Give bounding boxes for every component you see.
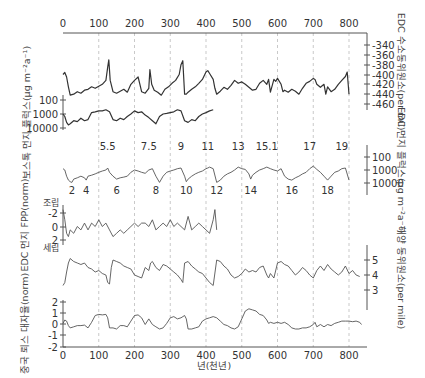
top-x-tick-label: 700 [304, 18, 323, 29]
top-x-tick-label: 200 [125, 18, 144, 29]
mis-stage-label: 10 [180, 185, 193, 196]
bottom-x-tick-label: 200 [125, 350, 144, 361]
mis-stage-label: 4 [83, 185, 89, 196]
vostok-dust-axis-title: 보스톡 먼지 플럭스(μg m⁻²a⁻¹) [21, 46, 32, 179]
axis-labels: 0010010020020030030040040050050060060070… [19, 13, 407, 375]
mis-stage-label: 13 [232, 141, 245, 152]
mis-stage-label: 2 [69, 185, 75, 196]
mis-stage-label: 19 [335, 141, 348, 152]
fine-annotation: 세립 [43, 243, 59, 253]
top-x-tick-label: 600 [268, 18, 287, 29]
mis-stage-label: 5.5 [100, 141, 116, 152]
china-loess-tick-label: -1 [48, 330, 58, 341]
edc-dust-tick-label: 100 [372, 152, 391, 163]
bottom-x-tick-label: 300 [161, 350, 180, 361]
bottom-x-tick-label: 100 [89, 350, 108, 361]
marine-isotope-line [63, 259, 360, 286]
paleoclimate-chart: 0010010020020030030040040050050060060070… [0, 0, 425, 378]
top-x-tick-label: 0 [60, 18, 66, 29]
bottom-x-tick-label: 600 [268, 350, 287, 361]
edc-dust-fpp-axis-title: EDC 먼지 FPP(norm) [19, 178, 30, 271]
marine-isotope-tick-label: 3 [372, 285, 378, 296]
x-axis-title: 년(천년) [197, 360, 231, 371]
mis-stage-label: 6 [113, 185, 119, 196]
mis-stage-label: 17 [303, 141, 316, 152]
china-loess-line [63, 309, 362, 329]
edc-dust-fpp-tick-label: 0 [52, 222, 58, 233]
china-loess-tick-label: 2 [52, 297, 58, 308]
mis-stage-label: 12 [210, 185, 223, 196]
china-loess-tick-label: -2 [48, 342, 58, 353]
mis-stage-label: 7.5 [141, 141, 157, 152]
mis-stage-label: 14 [244, 185, 257, 196]
mis-stage-label: 15.1 [256, 141, 278, 152]
top-x-tick-label: 100 [89, 18, 108, 29]
china-loess-tick-label: 1 [52, 308, 58, 319]
mis-stage-label: 16 [285, 185, 298, 196]
vostok-dust-tick-label: 100 [39, 95, 58, 106]
vostok-dust-tick-label: 1000 [33, 109, 58, 120]
bottom-x-tick-label: 500 [232, 350, 251, 361]
edc-deuterium-tick-label: -460 [372, 99, 395, 110]
top-x-tick-label: 300 [161, 18, 180, 29]
china-loess-axis-title: 중국 뢰스 대자율(norm) [19, 273, 30, 374]
bottom-x-tick-label: 800 [339, 350, 358, 361]
edc-dust-tick-label: 1000 [372, 165, 397, 176]
top-x-tick-label: 800 [339, 18, 358, 29]
marine-isotope-axis-title: 해양 동위원소(per mile) [396, 226, 407, 330]
mis-stage-label: 8 [153, 185, 159, 196]
bottom-x-tick-label: 700 [304, 350, 323, 361]
marine-isotope-tick-label: 4 [372, 270, 378, 281]
edc-dust-fpp-line [63, 210, 217, 237]
china-loess-tick-label: 0 [52, 319, 58, 330]
vostok-dust-line [63, 110, 213, 125]
mis-stage-label: 11 [201, 141, 214, 152]
edc-dust-fpp-tick-label: -2 [48, 208, 58, 219]
marine-isotope-tick-label: 5 [372, 255, 378, 266]
edc-dust-axis-title: EDC 먼지 플럭스(μg m⁻²a⁻¹) [396, 107, 407, 233]
mis-stage-label: 18 [321, 185, 334, 196]
mis-stage-label: 9 [178, 141, 184, 152]
top-x-tick-label: 500 [232, 18, 251, 29]
top-x-tick-label: 400 [196, 18, 215, 29]
bottom-x-tick-label: 0 [60, 350, 66, 361]
coarse-annotation: 조립 [43, 198, 59, 208]
